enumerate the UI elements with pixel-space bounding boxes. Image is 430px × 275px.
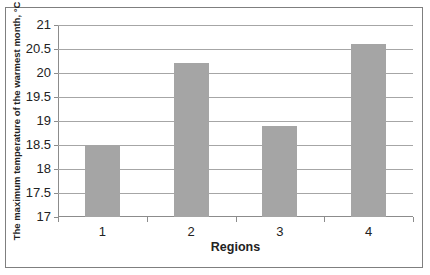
x-tick [147, 217, 148, 222]
bar-region-1 [85, 145, 120, 217]
x-tick-label: 3 [260, 224, 300, 239]
bar-region-3 [262, 126, 297, 217]
bar-region-4 [351, 44, 386, 217]
x-tick-label: 1 [82, 224, 122, 239]
x-tick [58, 217, 59, 222]
bar-region-2 [174, 63, 209, 217]
gridline [58, 25, 413, 26]
x-tick [413, 217, 414, 222]
x-tick [324, 217, 325, 222]
plot-area [58, 25, 413, 217]
x-axis-title: Regions [58, 240, 413, 254]
y-tick [54, 193, 58, 194]
y-axis-title: The maximum temperature of the warmest m… [11, 2, 22, 241]
y-tick [54, 145, 58, 146]
y-tick [54, 121, 58, 122]
x-tick-label: 4 [349, 224, 389, 239]
x-tick [236, 217, 237, 222]
y-tick [54, 73, 58, 74]
y-tick [54, 97, 58, 98]
y-tick [54, 169, 58, 170]
x-tick-label: 2 [171, 224, 211, 239]
y-tick [54, 25, 58, 26]
y-tick [54, 49, 58, 50]
